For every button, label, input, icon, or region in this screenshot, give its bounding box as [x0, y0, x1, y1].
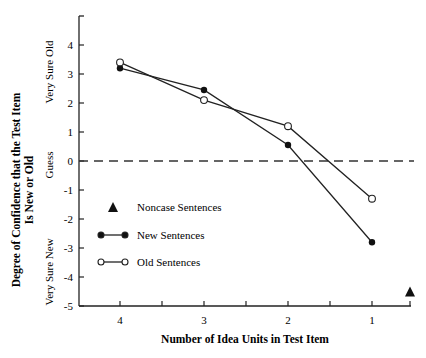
- y-axis-title-line1: Degree of Confidence that the Test Item: [10, 92, 23, 287]
- x-tick-label: 1: [369, 314, 375, 326]
- y-anchor-guess: Guess: [43, 152, 55, 179]
- y-tick-label: 1: [68, 126, 74, 138]
- x-tick-label: 2: [285, 314, 291, 326]
- y-tick-label: -1: [64, 184, 73, 196]
- old-point-marker: [369, 195, 376, 202]
- legend-label: Noncase Sentences: [137, 201, 222, 213]
- new-point-marker: [201, 87, 207, 93]
- x-tick-label: 4: [117, 314, 123, 326]
- legend-open-circle-icon: [98, 259, 104, 265]
- x-axis-title: Number of Idea Units in Test Item: [161, 333, 329, 345]
- new-point-marker: [369, 239, 375, 245]
- old-point-marker: [285, 123, 292, 130]
- new-sentences-line: [120, 68, 372, 242]
- legend-filled-circle-icon: [98, 232, 104, 238]
- y-tick-label: -2: [64, 213, 73, 225]
- y-tick-label: 2: [68, 97, 74, 109]
- old-point-marker: [117, 59, 124, 66]
- y-tick-label: 4: [68, 39, 74, 51]
- y-axis-title-line2: Is New or Old: [23, 155, 35, 224]
- legend-label: New Sentences: [137, 229, 205, 241]
- legend-filled-circle-icon: [122, 232, 128, 238]
- y-anchor-very-sure-old: Very Sure Old: [43, 40, 55, 103]
- line-chart: 43210-1-2-3-4-5 4321 Noncase SentencesNe…: [0, 0, 426, 358]
- x-ticks: 4321: [117, 301, 410, 326]
- y-tick-label: 3: [68, 68, 74, 80]
- legend-triangle-icon: [108, 202, 118, 212]
- new-point-marker: [285, 142, 291, 148]
- y-tick-label: -4: [64, 271, 74, 283]
- old-point-marker: [201, 97, 208, 104]
- y-tick-label: 0: [68, 155, 74, 167]
- y-anchor-very-sure-new: Very Sure New: [43, 238, 55, 305]
- y-tick-label: -3: [64, 242, 74, 254]
- legend: Noncase SentencesNew SentencesOld Senten…: [98, 201, 222, 268]
- legend-open-circle-icon: [122, 259, 128, 265]
- y-tick-label: -5: [64, 300, 74, 312]
- y-ticks: 43210-1-2-3-4-5: [64, 39, 84, 312]
- legend-label: Old Sentences: [137, 256, 200, 268]
- x-tick-label: 3: [201, 314, 207, 326]
- old-sentences-line: [120, 62, 372, 198]
- noncase-triangle-marker: [405, 287, 415, 297]
